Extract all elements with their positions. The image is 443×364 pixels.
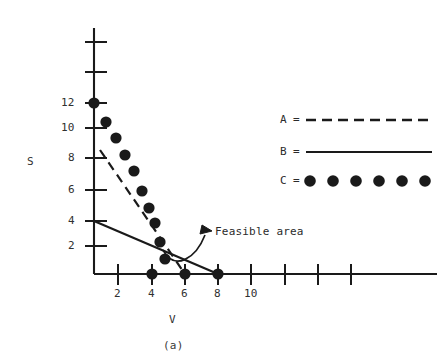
figure-caption: (a) — [163, 340, 183, 351]
series-c-marker — [88, 97, 99, 108]
legend-eq-a: = — [293, 114, 300, 125]
x-tick-label-2: 2 — [114, 288, 121, 299]
legend-key-b: B — [280, 146, 287, 157]
x-tick-label-4: 4 — [148, 288, 155, 299]
y-tick-label-2: 2 — [68, 240, 75, 251]
series-c-marker — [136, 185, 147, 196]
series-c-marker — [154, 236, 165, 247]
legend-dot-c — [304, 175, 316, 187]
feasible-area-arrow-curve — [163, 235, 205, 261]
x-axis-label: V — [169, 314, 176, 325]
legend-key-a: A — [280, 114, 287, 125]
series-c-marker — [143, 202, 154, 213]
series-c-marker — [100, 116, 111, 127]
series-c-marker — [110, 132, 121, 143]
series-c-dotted-markers — [88, 97, 223, 279]
legend-swatch-c-dotted — [304, 175, 431, 187]
legend-dot-c — [327, 175, 339, 187]
legend-marks — [304, 120, 432, 187]
legend-dot-c — [350, 175, 362, 187]
series-c-marker — [146, 268, 157, 279]
feasible-area-arrow-head — [200, 225, 212, 234]
series-c-marker — [119, 149, 130, 160]
feasible-area-arrow — [163, 225, 212, 261]
y-tick-label-10: 10 — [61, 122, 75, 133]
y-tick-label-6: 6 — [68, 184, 75, 195]
x-tick-label-8: 8 — [214, 288, 221, 299]
y-tick-label-8: 8 — [68, 152, 75, 163]
legend-dot-c — [419, 175, 431, 187]
legend-eq-b: = — [293, 146, 300, 157]
series-c-marker — [149, 217, 160, 228]
feasible-area-label: Feasible area — [215, 226, 304, 237]
legend-eq-c: = — [293, 175, 300, 186]
legend-dot-c — [396, 175, 408, 187]
legend-key-c: C — [280, 175, 287, 186]
series-c-marker — [179, 268, 190, 279]
y-tick-label-4: 4 — [68, 215, 75, 226]
y-axis-ticks — [85, 42, 107, 246]
series-c-marker — [128, 165, 139, 176]
y-tick-label-12: 12 — [61, 97, 75, 108]
series-c-marker — [212, 268, 223, 279]
x-tick-label-6: 6 — [181, 288, 188, 299]
x-tick-label-10: 10 — [244, 288, 258, 299]
y-axis-label: S — [27, 156, 34, 167]
series-c-marker — [159, 253, 170, 264]
legend-dot-c — [373, 175, 385, 187]
figure-plot — [0, 0, 443, 364]
